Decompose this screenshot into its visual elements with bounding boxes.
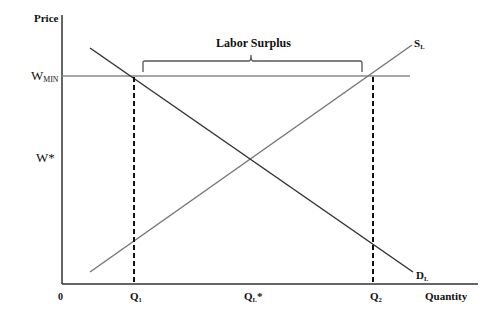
wmin-label: WMIN [31,69,58,84]
supply-label: SL [414,38,425,50]
labor-surplus-label: Labor Surplus [216,37,291,49]
x-axis-label: Quantity [425,291,467,302]
y-axis-label: Price [34,13,58,24]
origin-label: 0 [58,292,63,302]
q2-label: Q2 [370,291,382,303]
q1-label: Q1 [130,291,142,303]
surplus-bracket [143,55,362,72]
wstar-label: W* [36,151,55,164]
demand-label: DL [416,270,428,282]
qstar-label: QL* [244,291,262,303]
